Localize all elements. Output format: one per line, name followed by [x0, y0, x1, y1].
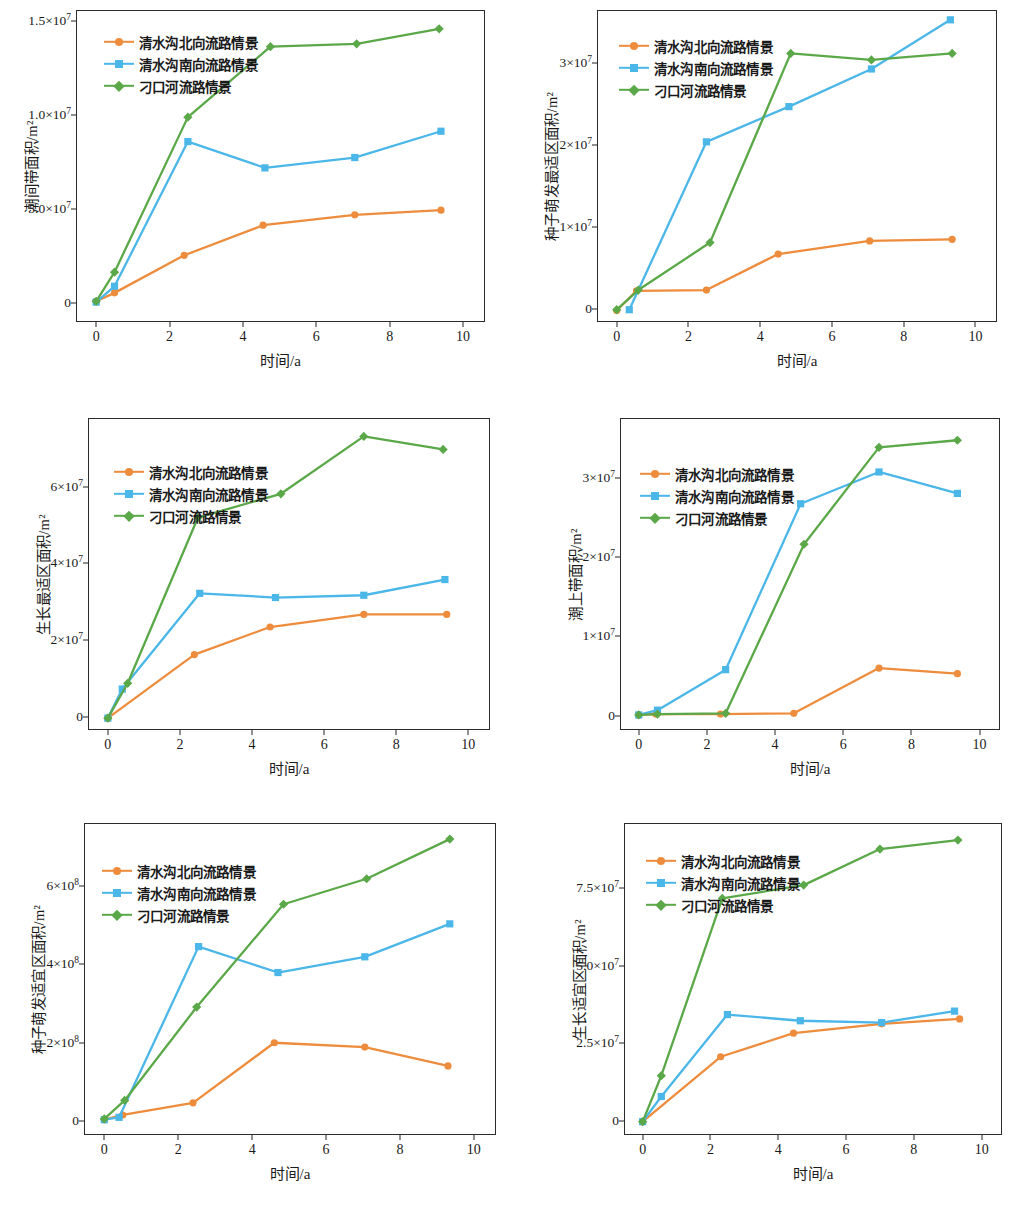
legend-marker-circle-icon — [640, 468, 670, 480]
legend-item-1[interactable]: 清水沟北向流路情景 — [619, 36, 773, 56]
legend-label-1: 清水沟北向流路情景 — [675, 464, 794, 484]
legend-item-1[interactable]: 清水沟北向流路情景 — [646, 851, 800, 871]
legend-item-3[interactable]: 刁口河流路情景 — [102, 905, 256, 925]
legend: 清水沟北向流路情景清水沟南向流路情景刁口河流路情景 — [102, 861, 256, 925]
y-axis-label-text: 种子萌发适宜区面积/m² — [28, 904, 49, 1053]
plot-area: 02×1084×1086×1080246810时间/a清水沟北向流路情景清水沟南… — [84, 823, 496, 1135]
legend-marker-circle-icon — [619, 40, 649, 52]
data-point-2 — [724, 1011, 731, 1018]
legend-item-2[interactable]: 清水沟南向流路情景 — [104, 54, 258, 74]
legend-label-2: 清水沟南向流路情景 — [675, 486, 794, 506]
legend: 清水沟北向流路情景清水沟南向流路情景刁口河流路情景 — [114, 462, 268, 526]
data-point-2 — [195, 943, 202, 950]
chart-panel-top-right: 种子萌发最适区面积/m²01×1072×1073×1070246810时间/a清… — [511, 0, 1023, 403]
plot-area: 01×1072×1073×1070246810时间/a清水沟北向流路情景清水沟南… — [597, 10, 997, 322]
x-tick-label: 4 — [775, 1142, 782, 1158]
data-point-1 — [111, 289, 118, 296]
data-point-2 — [361, 953, 368, 960]
x-tick-label: 4 — [239, 329, 246, 345]
legend-item-2[interactable]: 清水沟南向流路情景 — [102, 883, 256, 903]
x-tick-mark — [706, 730, 707, 735]
data-point-3 — [799, 880, 808, 889]
data-point-1 — [361, 1043, 368, 1050]
data-point-2 — [951, 1008, 958, 1015]
data-point-3 — [953, 436, 962, 445]
chart-panel-bottom-left: 种子萌发适宜区面积/m²02×1084×1086×1080246810时间/a清… — [0, 806, 511, 1209]
data-point-3 — [867, 55, 876, 64]
x-tick-label: 0 — [613, 329, 620, 345]
x-tick-mark — [252, 730, 253, 735]
x-tick-label: 2 — [175, 1142, 182, 1158]
x-axis-label: 时间/a — [790, 757, 831, 778]
data-point-1 — [351, 211, 358, 218]
legend-marker-circle-icon — [102, 865, 132, 877]
x-tick-mark — [710, 1135, 711, 1140]
data-point-1 — [790, 710, 797, 717]
legend-label-2: 清水沟南向流路情景 — [139, 54, 258, 74]
data-point-2 — [703, 138, 710, 145]
y-axis-label: 生长适宜区面积/m² — [558, 823, 598, 1135]
y-axis-label: 生长最适区面积/m² — [22, 418, 62, 730]
legend-label-2: 清水沟南向流路情景 — [137, 883, 256, 903]
legend-item-3[interactable]: 刁口河流路情景 — [646, 895, 800, 915]
x-tick-label: 8 — [900, 329, 907, 345]
legend-item-1[interactable]: 清水沟北向流路情景 — [104, 32, 258, 52]
legend-item-3[interactable]: 刁口河流路情景 — [619, 80, 773, 100]
data-point-3 — [439, 445, 448, 454]
series-line-1 — [108, 614, 447, 718]
data-point-3 — [875, 844, 884, 853]
y-tick-label: 2.5×107 — [576, 1035, 624, 1051]
figure-grid: 潮间带面积/m²05.0×1071.0×1071.5×1070246810时间/… — [0, 0, 1023, 1209]
x-tick-mark — [981, 1135, 982, 1140]
x-tick-label: 0 — [93, 329, 100, 345]
data-point-2 — [437, 128, 444, 135]
data-point-1 — [271, 1039, 278, 1046]
x-tick-label: 10 — [467, 1142, 481, 1158]
x-tick-label: 8 — [908, 737, 915, 753]
x-tick-label: 6 — [840, 737, 847, 753]
legend-label-1: 清水沟北向流路情景 — [681, 851, 800, 871]
legend-item-3[interactable]: 刁口河流路情景 — [640, 508, 794, 528]
x-tick-mark — [846, 1135, 847, 1140]
legend-item-3[interactable]: 刁口河流路情景 — [104, 76, 258, 96]
data-point-1 — [775, 250, 782, 257]
data-point-2 — [785, 103, 792, 110]
legend-item-1[interactable]: 清水沟北向流路情景 — [640, 464, 794, 484]
legend-marker-square-icon — [104, 58, 134, 70]
x-tick-mark — [96, 322, 97, 327]
x-tick-label: 0 — [639, 1142, 646, 1158]
legend-marker-square-icon — [640, 490, 670, 502]
data-point-1 — [189, 1099, 196, 1106]
x-tick-mark — [975, 322, 976, 327]
chart-panel-top-left: 潮间带面积/m²05.0×1071.0×1071.5×1070246810时间/… — [0, 0, 511, 403]
x-tick-label: 8 — [910, 1142, 917, 1158]
x-axis-label: 时间/a — [270, 1162, 311, 1183]
plot-area: 02×1074×1076×1070246810时间/a清水沟北向流路情景清水沟南… — [88, 418, 490, 730]
x-tick-mark — [107, 730, 108, 735]
legend-label-3: 刁口河流路情景 — [654, 80, 746, 100]
data-point-2 — [658, 1093, 665, 1100]
legend-marker-diamond-icon — [646, 899, 676, 911]
data-point-2 — [272, 594, 279, 601]
x-tick-label: 8 — [396, 1142, 403, 1158]
legend-item-2[interactable]: 清水沟南向流路情景 — [646, 873, 800, 893]
legend-item-2[interactable]: 清水沟南向流路情景 — [640, 486, 794, 506]
legend-item-2[interactable]: 清水沟南向流路情景 — [114, 484, 268, 504]
legend-item-1[interactable]: 清水沟北向流路情景 — [102, 861, 256, 881]
legend-label-3: 刁口河流路情景 — [149, 506, 241, 526]
data-point-2 — [626, 306, 633, 313]
data-point-1 — [191, 651, 198, 658]
x-tick-label: 2 — [176, 737, 183, 753]
legend-item-2[interactable]: 清水沟南向流路情景 — [619, 58, 773, 78]
x-tick-label: 6 — [321, 737, 328, 753]
y-tick-label: 1.0×107 — [28, 107, 76, 123]
data-point-1 — [790, 1030, 797, 1037]
plot-area: 02.5×1075.0×1077.5×1070246810时间/a清水沟北向流路… — [624, 823, 1002, 1135]
x-tick-mark — [179, 730, 180, 735]
data-point-2 — [261, 164, 268, 171]
x-tick-label: 2 — [685, 329, 692, 345]
legend-item-3[interactable]: 刁口河流路情景 — [114, 506, 268, 526]
data-point-2 — [196, 590, 203, 597]
x-tick-mark — [843, 730, 844, 735]
legend-item-1[interactable]: 清水沟北向流路情景 — [114, 462, 268, 482]
